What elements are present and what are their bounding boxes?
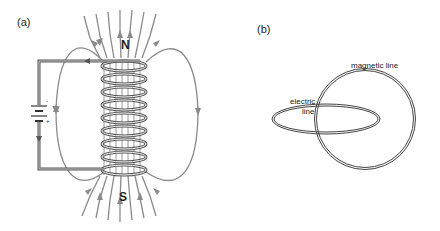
panel-a-label: (a) — [17, 16, 30, 28]
electric-line-label-2: line — [302, 107, 314, 116]
solenoid-coil — [102, 61, 146, 175]
south-pole-label: S — [119, 190, 127, 204]
core-field-lines — [104, 60, 140, 175]
panel-b-label: (b) — [257, 23, 270, 35]
battery-plus-label: + — [46, 118, 50, 124]
magnetic-line-label: magnetic line — [351, 61, 398, 70]
diagram-canvas — [0, 0, 440, 231]
electric-line-loop — [272, 104, 380, 134]
north-pole-label: N — [121, 38, 130, 52]
electric-line-label-1: electric — [290, 97, 315, 106]
battery-icon — [31, 106, 47, 121]
magnetic-line-loop — [315, 69, 416, 170]
battery-minus-label: - — [46, 98, 48, 104]
